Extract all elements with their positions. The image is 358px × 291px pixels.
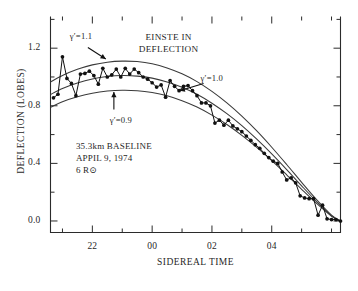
einstein-line-2: DEFLECTION bbox=[123, 44, 215, 56]
annotation-gamma-1-0: γ′=1.0 bbox=[201, 73, 223, 83]
deflection-chart-figure: 1.2 0.8 0.4 0.0 22 00 02 04 DEFLECTION (… bbox=[0, 0, 358, 291]
note-line-date: APPIL 9, 1974 bbox=[76, 152, 152, 164]
y-axis-title: DEFLECTION (LOBES) bbox=[16, 13, 26, 229]
note-line-radius: 6 R⊙ bbox=[76, 164, 152, 176]
annotation-einstein-deflection: EINSTE IN DEFLECTION bbox=[123, 32, 215, 55]
annotation-observation-note: 35.3km BASELINE APPIL 9, 1974 6 R⊙ bbox=[76, 140, 152, 177]
annotation-gamma-1-1: γ′=1.1 bbox=[70, 31, 92, 41]
annotation-gamma-0-9: γ′=0.9 bbox=[110, 115, 132, 125]
x-tick-label-04: 04 bbox=[232, 241, 312, 251]
x-axis-title: SIDEREAL TIME bbox=[126, 257, 266, 267]
einstein-line-1: EINSTE IN bbox=[123, 32, 215, 44]
note-line-baseline: 35.3km BASELINE bbox=[76, 140, 152, 152]
